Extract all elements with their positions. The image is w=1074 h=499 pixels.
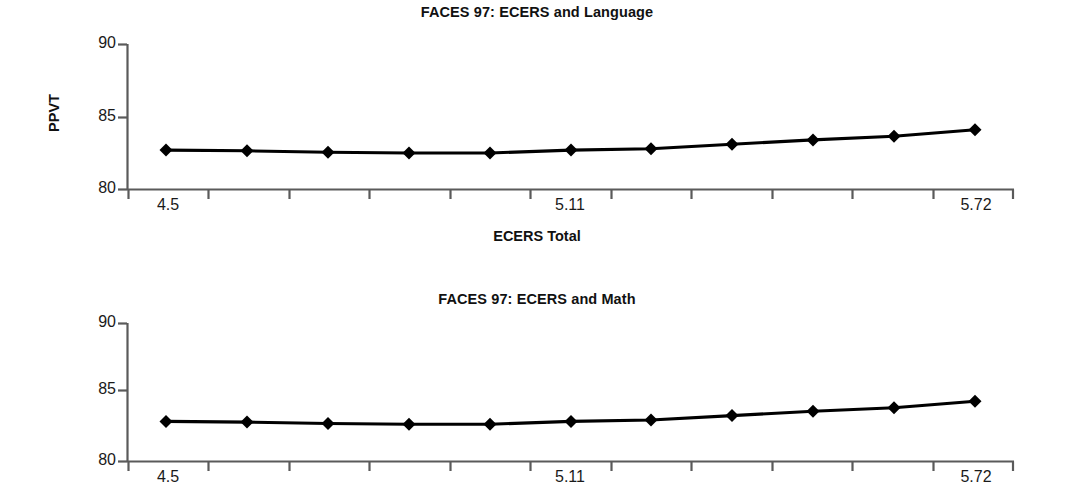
data-markers-wj [160,395,982,431]
plot-area-language [0,0,1074,250]
data-markers-ppvt [160,123,982,159]
y-tick-label-85: 85 [72,380,116,398]
chart-ecers-and-language: FACES 97: ECERS and Language PPVT 90 85 … [0,0,1074,250]
x-tick-label-4-5: 4.5 [128,468,208,486]
chart-ecers-and-math: FACES 97: ECERS and Math [0,250,1074,499]
figure-page: FACES 97: ECERS and Language PPVT 90 85 … [0,0,1074,499]
y-tick-label-80: 80 [72,451,116,469]
axis-lines [118,323,1014,471]
x-tick-label-5-72: 5.72 [936,468,1016,486]
axis-lines [118,44,1014,199]
x-tick-label-5-11: 5.11 [530,468,610,486]
plot-area-math [0,250,1074,499]
y-tick-label-90: 90 [72,313,116,331]
